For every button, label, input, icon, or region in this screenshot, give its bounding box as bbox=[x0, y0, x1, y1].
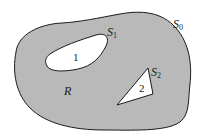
hole-1-number: 1 bbox=[73, 51, 79, 63]
region-diagram: 1 2 R S0 S1 S2 bbox=[0, 0, 205, 139]
outer-region-r bbox=[15, 12, 191, 130]
s2-label-sub: 2 bbox=[157, 71, 161, 80]
region-r-label: R bbox=[63, 84, 72, 98]
hole-2-number: 2 bbox=[139, 82, 145, 94]
s1-label-sub: 1 bbox=[113, 31, 117, 40]
s0-label: S0 bbox=[173, 17, 183, 32]
s0-label-sub: 0 bbox=[179, 23, 183, 32]
